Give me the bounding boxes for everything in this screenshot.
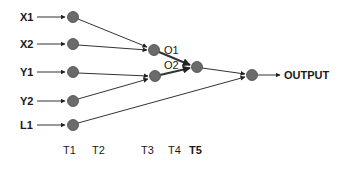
node-x2 xyxy=(68,39,79,50)
hidden-label-o1: O1 xyxy=(164,44,179,56)
edge-l1-output xyxy=(78,77,245,123)
edge-x2-o1 xyxy=(78,45,147,50)
hidden-label-o2: O2 xyxy=(164,59,179,71)
node-o1 xyxy=(149,45,160,56)
time-label-t5: T5 xyxy=(189,144,202,156)
node-y2 xyxy=(68,96,79,107)
input-label-y2: Y2 xyxy=(20,95,33,107)
node-middle xyxy=(192,62,203,73)
edge-y1-o2 xyxy=(78,73,148,76)
input-label-l1: L1 xyxy=(20,119,33,131)
node-output xyxy=(247,70,258,81)
time-label-t1: T1 xyxy=(63,144,76,156)
node-o2 xyxy=(150,71,161,82)
neural-timing-diagram: X1 X2 Y1 Y2 L1 O1 O2 OUTPUT T1 T2 T3 T4 … xyxy=(0,0,340,170)
input-label-y1: Y1 xyxy=(20,66,33,78)
node-y1 xyxy=(68,67,79,78)
input-label-x1: X1 xyxy=(20,11,33,23)
time-label-t4: T4 xyxy=(168,144,181,156)
edge-x1-o1 xyxy=(78,19,147,47)
input-label-x2: X2 xyxy=(20,38,33,50)
node-x1 xyxy=(68,12,79,23)
edge-middle-output xyxy=(202,68,245,74)
node-l1 xyxy=(68,120,79,131)
time-label-t3: T3 xyxy=(141,144,154,156)
edge-y2-o2 xyxy=(78,79,148,99)
time-label-t2: T2 xyxy=(92,144,105,156)
output-label: OUTPUT xyxy=(284,69,330,81)
